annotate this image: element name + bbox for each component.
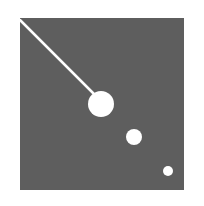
large-circle — [88, 91, 114, 117]
abstract-artwork — [0, 0, 204, 206]
small-circle — [163, 166, 173, 176]
medium-circle — [126, 129, 142, 145]
